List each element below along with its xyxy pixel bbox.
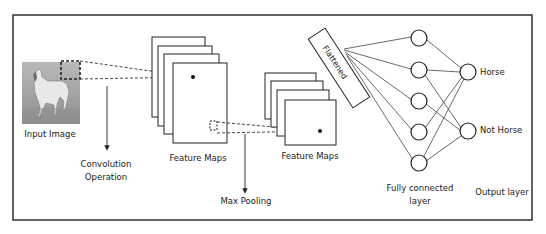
- max-pooling-label: Max Pooling: [220, 196, 271, 206]
- output-layer-label: Output layer: [475, 187, 529, 197]
- fully-connected-layer-nodes: [411, 30, 427, 171]
- input-image: [22, 62, 80, 124]
- output-node-not-horse: [460, 123, 476, 139]
- fc-node-5: [411, 155, 427, 171]
- fully-connected-label-1: Fully connected: [387, 183, 454, 193]
- output-not-horse-label: Not Horse: [480, 125, 522, 135]
- convolution-label-2: Operation: [85, 172, 127, 182]
- fc-node-2: [411, 62, 427, 78]
- output-node-horse: [460, 64, 476, 80]
- feature-maps-1-label: Feature Maps: [169, 153, 227, 163]
- fully-connected-label-2: layer: [409, 196, 431, 206]
- fc-node-4: [411, 124, 427, 140]
- feature-map-2-dot: [318, 129, 322, 133]
- feature-maps-1-stack: [152, 37, 227, 143]
- cnn-diagram: Input Image Convolution Operation Featur…: [0, 0, 546, 234]
- feature-maps-2-stack: [265, 73, 336, 145]
- feature-map-1-dot: [191, 75, 195, 79]
- convolution-label-1: Convolution: [81, 159, 132, 169]
- fc-node-3: [411, 93, 427, 109]
- output-horse-label: Horse: [480, 67, 505, 77]
- fc-to-output-connections: [423, 40, 464, 161]
- fc-node-1: [411, 30, 427, 46]
- feature-maps-2-label: Feature Maps: [281, 151, 339, 161]
- input-image-label: Input Image: [24, 129, 75, 139]
- output-layer-nodes: [460, 64, 476, 139]
